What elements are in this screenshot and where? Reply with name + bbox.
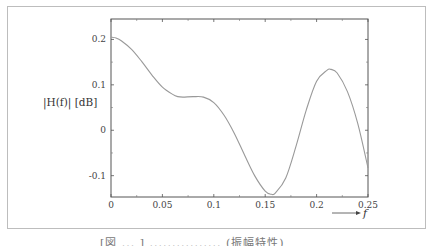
figure-caption: [図 ... ] ................ (振幅特性) — [100, 234, 360, 246]
x-tick-label: 0.25 — [358, 200, 378, 210]
y-tick-label: -0.1 — [89, 171, 106, 181]
y-axis-label: |H(f)| [dB] — [43, 96, 97, 110]
y-tick-label: 0.2 — [92, 34, 106, 44]
y-tick-label: 0.1 — [92, 80, 106, 90]
x-tick-label: 0.2 — [309, 200, 323, 210]
plot-area — [111, 19, 368, 197]
x-tick-label: 0.15 — [255, 200, 275, 210]
x-axis-ticks: 00.050.10.150.20.25 — [108, 19, 378, 210]
data-line — [111, 37, 368, 195]
x-tick-label: 0.05 — [152, 200, 172, 210]
x-tick-label: 0 — [108, 200, 114, 210]
x-tick-label: 0.1 — [207, 200, 221, 210]
y-tick-label: 0 — [100, 125, 106, 135]
arrow-head-icon — [356, 211, 361, 215]
y-axis-ticks: -0.100.10.2 — [89, 34, 368, 180]
